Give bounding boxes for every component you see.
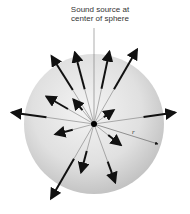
source-label: Sound source at center of sphere xyxy=(60,5,140,23)
sound-source-dot xyxy=(91,121,97,127)
label-line-1: Sound source at xyxy=(60,5,140,14)
label-line-2: center of sphere xyxy=(60,14,140,23)
sound-sphere-diagram: r Sound source at center of sphere xyxy=(0,0,190,214)
radius-label: r xyxy=(132,128,135,136)
diagram-graphic: r xyxy=(0,0,190,214)
